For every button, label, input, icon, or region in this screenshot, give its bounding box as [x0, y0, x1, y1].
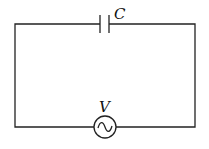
- wire-right: [109, 24, 195, 127]
- circuit-diagram: C V: [0, 0, 209, 149]
- ac-source-icon: [94, 116, 116, 138]
- source-label: V: [99, 98, 112, 116]
- wire-left: [15, 24, 100, 127]
- capacitor-label: C: [114, 5, 126, 23]
- capacitor-icon: [100, 15, 109, 33]
